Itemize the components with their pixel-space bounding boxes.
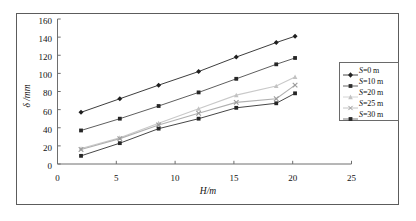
legend-item-0: S=0 m bbox=[340, 65, 398, 76]
legend-marker-cross-icon bbox=[342, 99, 359, 109]
legend-item-3: S=25 m bbox=[340, 98, 398, 109]
legend-item-1: S=10 m bbox=[340, 76, 398, 87]
series-s-25-m bbox=[79, 83, 298, 152]
legend-item-4: S=30 m bbox=[340, 109, 398, 120]
series-s-20-m bbox=[79, 75, 298, 151]
legend-label-2: S=20 m bbox=[359, 88, 383, 97]
legend-marker-square-icon bbox=[342, 77, 359, 87]
legend-label-0: S=0 m bbox=[359, 66, 379, 75]
series-s-0-m bbox=[79, 34, 298, 115]
legend: S=0 m S=10 m S=20 m bbox=[339, 62, 399, 121]
legend-label-3: S=25 m bbox=[359, 99, 383, 108]
legend-label-1: S=10 m bbox=[359, 77, 383, 86]
legend-item-2: S=20 m bbox=[340, 87, 398, 98]
legend-marker-diamond-icon bbox=[342, 66, 359, 76]
legend-marker-square-dark-icon bbox=[342, 110, 359, 120]
legend-marker-triangle-icon bbox=[342, 88, 359, 98]
legend-label-4: S=30 m bbox=[359, 110, 383, 119]
figure-container: δ /mm H/m 160 140 120 100 80 60 40 20 0 … bbox=[0, 0, 416, 221]
